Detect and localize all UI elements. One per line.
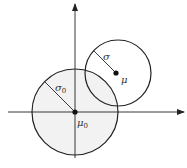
mu0-point (72, 109, 77, 114)
mu-label: μ (121, 74, 128, 85)
mu-point (113, 70, 118, 75)
sigma-label: σ (103, 51, 111, 62)
diagram-canvas: σ μ σ0 μ0 (0, 0, 187, 168)
